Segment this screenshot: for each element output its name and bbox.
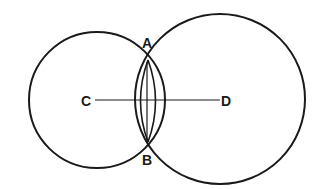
circle-d bbox=[135, 14, 305, 184]
label-b: B bbox=[142, 152, 152, 168]
two-circles-diagram: A B C D bbox=[0, 0, 328, 189]
label-a: A bbox=[142, 35, 152, 51]
lens-arc-right bbox=[148, 60, 156, 142]
label-c: C bbox=[81, 93, 91, 109]
label-d: D bbox=[221, 93, 231, 109]
